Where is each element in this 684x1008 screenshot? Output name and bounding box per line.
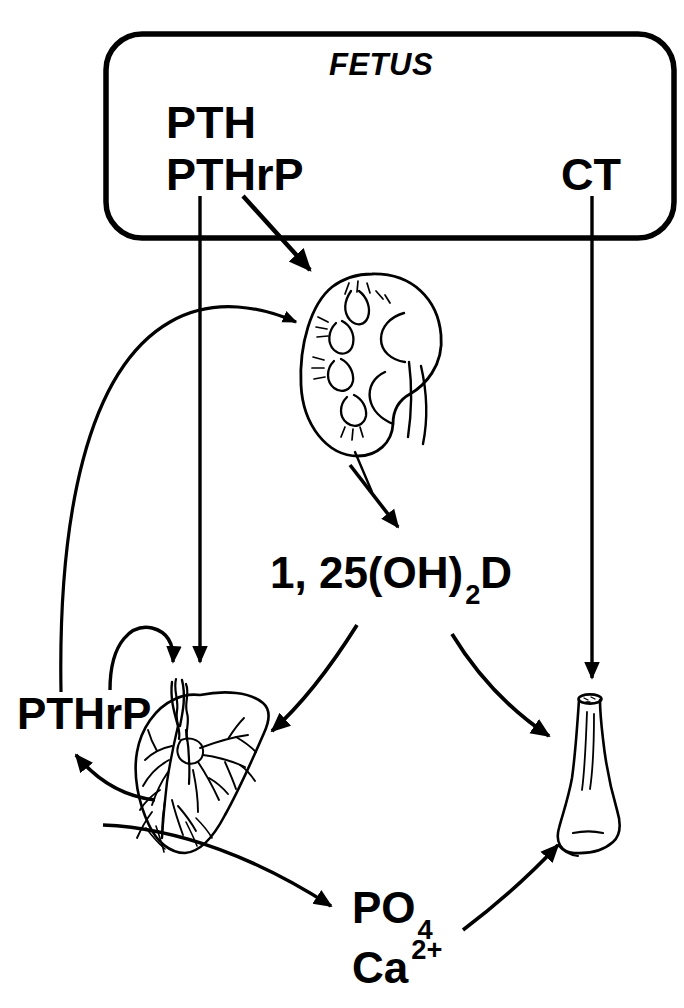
edge-minerals-to-bone	[463, 845, 558, 930]
phosphate-main: PO	[352, 883, 416, 932]
diagram-canvas: FETUS PTH PTHrP CT 1, 25(OH)2D PTHrP PO4…	[0, 0, 684, 1008]
fetus-box-title: FETUS	[329, 49, 433, 80]
calcium-main: Ca	[352, 943, 408, 992]
label-ct: CT	[561, 152, 621, 197]
edge-placental-pthrp-to-kidney	[61, 307, 296, 692]
edge-placenta-to-pthrp	[76, 755, 155, 800]
label-vitamin-d: 1, 25(OH)2D	[270, 551, 512, 602]
edge-kidney-to-vitamind	[350, 465, 398, 527]
edge-pthrp-to-kidney	[243, 196, 310, 270]
label-phosphate: PO4	[352, 886, 433, 937]
label-pth: PTH	[166, 100, 256, 145]
long-bone-icon	[558, 694, 620, 856]
label-pthrp-placental: PTHrP	[17, 692, 151, 736]
vitamin-d-main: 1, 25(OH)	[270, 548, 463, 597]
vitamin-d-tail: D	[480, 548, 512, 597]
vitamin-d-subscript: 2	[463, 579, 480, 610]
kidney-organ-icon	[301, 274, 442, 492]
edge-placental-pthrp-to-placenta	[110, 627, 173, 690]
edge-vitamind-to-bone	[452, 634, 549, 736]
placenta-organ-icon	[136, 679, 269, 853]
edge-vitamind-to-placenta	[272, 625, 357, 731]
label-calcium: Ca2+	[352, 944, 442, 990]
label-pthrp-fetal: PTHrP	[166, 152, 304, 197]
calcium-superscript: 2+	[408, 934, 442, 965]
